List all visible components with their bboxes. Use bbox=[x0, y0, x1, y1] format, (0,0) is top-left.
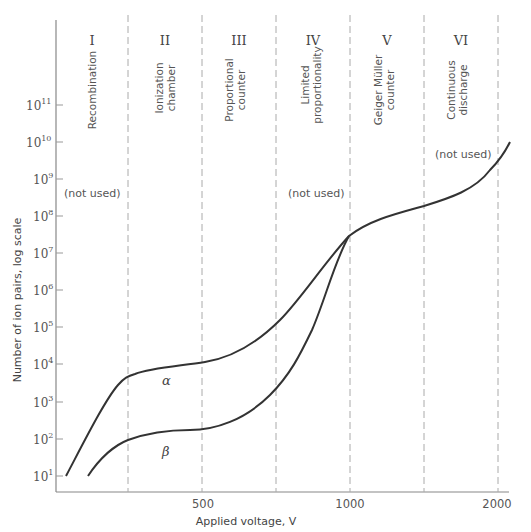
y-tick-label: 1010 bbox=[26, 134, 51, 150]
x-axis-label: Applied voltage, V bbox=[196, 515, 297, 528]
region-numeral-3: III bbox=[231, 33, 246, 48]
region-name-2a: Ionization bbox=[153, 62, 165, 113]
ionization-regions-chart: 1011 1010 109 108 107 106 105 104 103 10… bbox=[0, 0, 531, 532]
region-name-6a: Continuous bbox=[445, 60, 457, 119]
region-name-5a: Geiger Müller bbox=[372, 54, 384, 125]
region-numeral-5: V bbox=[381, 33, 392, 48]
y-tick-labels: 1011 1010 109 108 107 106 105 104 103 10… bbox=[26, 97, 53, 484]
y-tick-label: 107 bbox=[33, 245, 53, 261]
region-numeral-4: IV bbox=[306, 33, 321, 48]
x-tick-label-2000: 2000 bbox=[482, 497, 511, 511]
region-name-3a: Proportional bbox=[223, 58, 235, 122]
region-name-6b: discharge bbox=[457, 64, 469, 115]
y-tick-label: 105 bbox=[33, 319, 53, 335]
region-name-3b: counter bbox=[235, 69, 247, 110]
not-used-note-region-1: (not used) bbox=[64, 187, 121, 200]
region-name-4a: Limited bbox=[299, 65, 311, 104]
y-tick-label: 106 bbox=[33, 282, 53, 298]
y-tick-label: 109 bbox=[33, 171, 53, 187]
beta-curve bbox=[88, 236, 349, 476]
region-numeral-2: II bbox=[160, 33, 170, 48]
y-axis-label: Number of ion pairs, log scale bbox=[11, 217, 24, 382]
beta-label: β bbox=[161, 444, 170, 459]
y-tick-label: 108 bbox=[33, 208, 53, 224]
region-name-1: Recombination bbox=[86, 51, 98, 130]
region-numeral-6: VI bbox=[453, 33, 469, 48]
not-used-note-region-6: (not used) bbox=[435, 148, 492, 161]
y-tick-label: 101 bbox=[33, 468, 53, 484]
y-tick-label: 1011 bbox=[26, 97, 51, 113]
region-name-2b: chamber bbox=[165, 64, 177, 111]
y-tick-label: 104 bbox=[33, 356, 53, 372]
region-names: Recombination Ionization chamber Proport… bbox=[86, 46, 469, 129]
x-tick-label-500: 500 bbox=[192, 497, 214, 511]
region-name-5b: counter bbox=[384, 69, 396, 110]
not-used-note-region-4: (not used) bbox=[288, 187, 345, 200]
y-tick-label: 103 bbox=[33, 394, 53, 410]
region-numerals: I II III IV V VI bbox=[89, 33, 468, 48]
region-numeral-1: I bbox=[89, 33, 94, 48]
y-ticks bbox=[56, 105, 63, 476]
y-tick-label: 102 bbox=[33, 431, 53, 447]
x-tick-label-1000: 1000 bbox=[335, 497, 364, 511]
alpha-label: α bbox=[162, 373, 171, 388]
region-name-4b: proportionality bbox=[311, 46, 323, 123]
